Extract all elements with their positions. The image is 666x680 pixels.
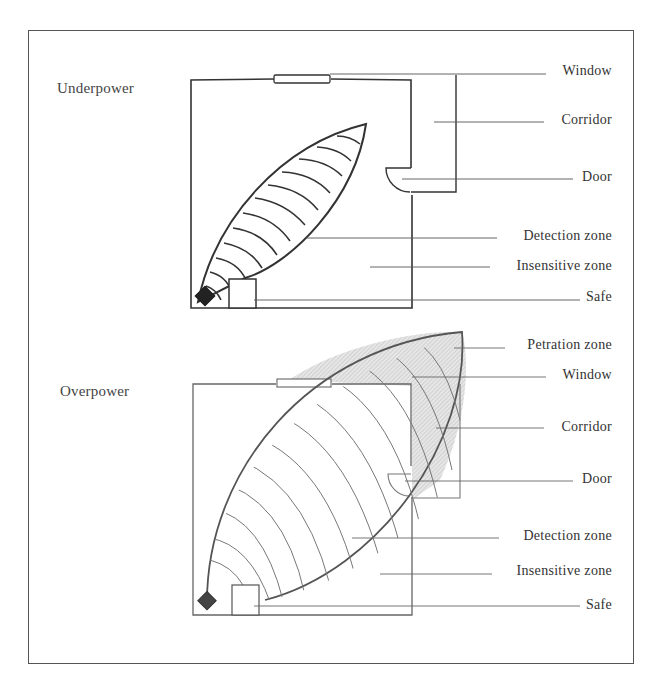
window-underpower <box>274 75 330 83</box>
room-walls-underpower <box>191 79 412 308</box>
underpower-panel <box>191 74 580 308</box>
overpower-panel <box>193 332 580 615</box>
corridor-underpower <box>411 75 456 192</box>
safe-underpower <box>229 279 256 308</box>
diagram-canvas <box>0 0 666 680</box>
detection-zone-underpower <box>198 124 366 302</box>
detection-arcs-underpower <box>206 136 360 300</box>
sensor-overpower <box>198 592 216 610</box>
room-walls-overpower <box>193 384 412 615</box>
safe-overpower <box>232 585 259 615</box>
door-overpower <box>388 474 411 496</box>
door-underpower <box>386 168 411 192</box>
penetration-zone-overpower <box>289 332 466 500</box>
leader-lines-underpower <box>254 74 580 300</box>
